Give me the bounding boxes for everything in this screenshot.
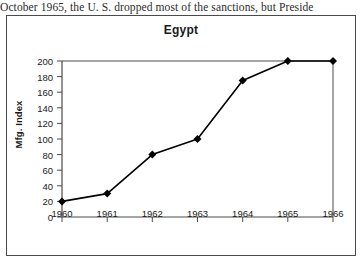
x-axis-tick-labels: 1960 1961 1962 1963 1964 1965 1966 [7, 16, 357, 257]
x-tick-label: 1960 [42, 208, 82, 219]
x-tick-label: 1962 [132, 208, 172, 219]
x-tick-label: 1961 [87, 208, 127, 219]
x-tick-label: 1964 [223, 208, 263, 219]
document-excerpt-line: October 1965, the U. S. dropped most of … [0, 0, 363, 15]
x-tick-label: 1963 [178, 208, 218, 219]
x-tick-label: 1966 [313, 208, 353, 219]
chart-container: Egypt Mfg. Index 200 180 160 140 120 100… [6, 15, 356, 256]
x-tick-label: 1965 [268, 208, 308, 219]
